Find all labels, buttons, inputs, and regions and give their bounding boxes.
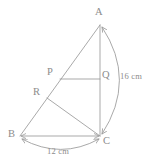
vertex-label-a: A bbox=[95, 7, 103, 18]
dimension-label-bc: 12 cm bbox=[47, 147, 69, 156]
dimension-arc-AC bbox=[102, 27, 120, 134]
segment-AB bbox=[20, 25, 100, 136]
geometry-diagram: A P Q R B C 16 cm 12 cm bbox=[0, 0, 155, 168]
segment-RC bbox=[47, 98, 100, 136]
vertex-label-q: Q bbox=[102, 70, 110, 81]
dimension-label-ac: 16 cm bbox=[120, 72, 142, 81]
vertex-label-p: P bbox=[47, 67, 53, 78]
vertex-label-r: R bbox=[33, 87, 40, 98]
figure-canvas bbox=[0, 0, 155, 168]
vertex-label-c: C bbox=[103, 136, 110, 147]
vertex-label-b: B bbox=[8, 129, 15, 140]
